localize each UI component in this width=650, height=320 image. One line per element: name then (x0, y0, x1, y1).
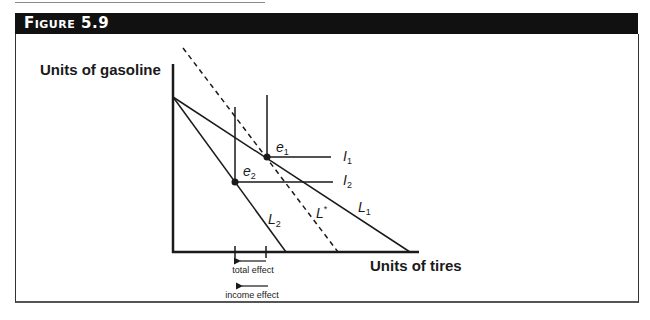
diagram: Units of gasoline Units of tires e1 e2 I… (0, 0, 650, 320)
label-I1: I1 (343, 148, 352, 166)
income-effect-label: income effect (225, 290, 279, 300)
label-e2: e2 (243, 163, 256, 181)
x-axis-label: Units of tires (370, 257, 462, 274)
label-L1: L1 (358, 199, 371, 217)
label-Lstar: L* (316, 204, 328, 221)
label-I2: I2 (343, 172, 352, 190)
total-effect-label: total effect (232, 265, 274, 275)
y-axis-label: Units of gasoline (40, 61, 161, 78)
budget-line-L2 (173, 97, 286, 252)
budget-line-Lstar (183, 48, 338, 252)
point-e1 (264, 154, 271, 161)
point-e2 (232, 179, 239, 186)
label-e1: e1 (276, 139, 289, 157)
label-L2: L2 (268, 211, 281, 229)
budget-line-L1 (173, 97, 410, 252)
